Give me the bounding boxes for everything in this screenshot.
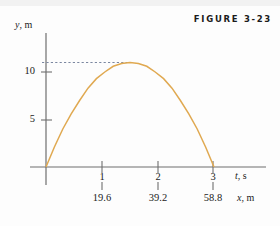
x-axis-label-distance-unit: , m bbox=[241, 192, 254, 203]
x-axis-label-distance: x, m bbox=[237, 192, 254, 203]
x-tick-label-1: 1 bbox=[89, 171, 115, 182]
figure-container: FIGURE 3-23 y, m 10 5 1 2 3 19.6 39.2 58… bbox=[0, 0, 280, 226]
x-tick-label-19-6: 19.6 bbox=[85, 192, 119, 203]
trajectory-curve bbox=[46, 63, 214, 168]
y-tick-label-5: 5 bbox=[17, 113, 35, 124]
y-axis-label: y, m bbox=[15, 19, 32, 30]
x-tick-label-39-2: 39.2 bbox=[141, 192, 175, 203]
x-tick-label-3: 3 bbox=[200, 171, 226, 182]
y-tick-label-10: 10 bbox=[17, 65, 35, 76]
x-tick-label-2: 2 bbox=[145, 171, 171, 182]
x-tick-label-58-8: 58.8 bbox=[196, 192, 230, 203]
x-axis-label-time-unit: , s bbox=[238, 170, 247, 181]
y-axis-label-unit: , m bbox=[19, 19, 32, 30]
x-axis-label-time: t, s bbox=[235, 170, 247, 181]
